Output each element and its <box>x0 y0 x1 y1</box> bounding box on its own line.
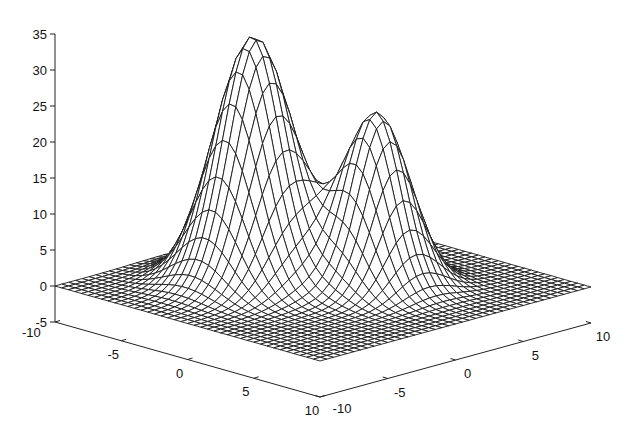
x-tick-label: -5 <box>107 347 119 362</box>
surface-plot: 35302520151050-5 -10-50510 -10-50510 <box>0 0 641 434</box>
surface-mesh <box>55 37 591 361</box>
z-tick-label: 35 <box>33 27 47 42</box>
z-tick-label: 5 <box>40 243 47 258</box>
x-tick-label: -10 <box>22 325 41 340</box>
x-tick-label: 0 <box>176 366 183 381</box>
y-tick-label: -5 <box>394 385 406 400</box>
z-tick-label: 30 <box>33 63 47 78</box>
z-tick-label: 20 <box>33 135 47 150</box>
z-tick-label: 15 <box>33 171 47 186</box>
y-tick-label: 5 <box>532 348 539 363</box>
y-tick-label: 10 <box>596 329 610 344</box>
z-tick-label: 0 <box>40 279 47 294</box>
figure-caption-clipped <box>0 426 641 434</box>
z-tick-label: 10 <box>33 207 47 222</box>
x-tick-label: 5 <box>242 384 249 399</box>
x-tick-label: 10 <box>305 403 319 418</box>
z-axis: 35302520151050-5 <box>33 27 55 330</box>
y-tick-label: 0 <box>464 366 471 381</box>
z-tick-label: 25 <box>33 99 47 114</box>
y-tick-label: -10 <box>333 401 352 416</box>
